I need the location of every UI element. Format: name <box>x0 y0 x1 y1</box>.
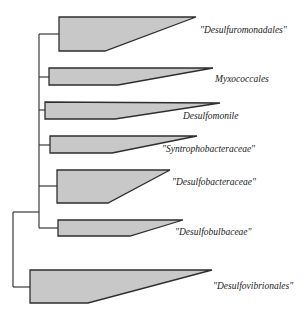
clade-desulfobacteraceae <box>57 170 170 203</box>
clade-desulfuromonadales <box>59 17 196 51</box>
label-myxococcales: Myxococcales <box>215 74 269 84</box>
label-desulfuromonadales: "Desulfuromonadales" <box>200 25 287 35</box>
clade-myxococcales <box>49 68 213 85</box>
phylogenetic-tree-diagram: "Desulfuromonadales" Myxococcales Desulf… <box>0 0 304 310</box>
label-syntrophobacteraceae: "Syntrophobacteraceae" <box>162 144 255 154</box>
label-desulfovibrionales: "Desulfovibrionales" <box>213 281 293 291</box>
label-desulfomonile: Desulfomonile <box>183 111 238 121</box>
clade-desulfovibrionales <box>30 270 212 303</box>
tree-graphic <box>0 0 304 310</box>
label-desulfobacteraceae: "Desulfobacteraceae" <box>172 177 256 187</box>
label-desulfobulbaceae: "Desulfobulbaceae" <box>175 227 252 237</box>
clade-desulfobulbaceae <box>58 220 183 236</box>
